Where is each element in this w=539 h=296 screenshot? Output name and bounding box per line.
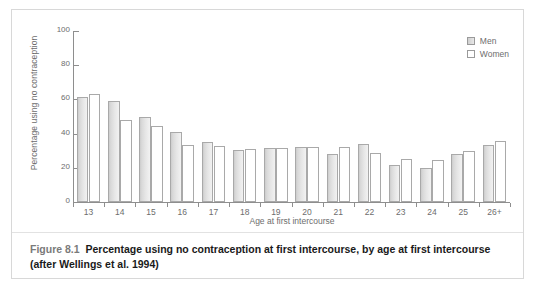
figure-number: Figure 8.1 — [30, 243, 80, 255]
women-swatch-icon — [467, 50, 475, 58]
bar-men[interactable] — [451, 154, 463, 202]
x-axis-tick-label: 16 — [167, 207, 198, 217]
bar-men[interactable] — [389, 165, 401, 202]
bar-men[interactable] — [327, 154, 339, 202]
bar-group — [416, 31, 447, 202]
legend-entry: Women — [467, 49, 509, 59]
bar-women[interactable] — [214, 146, 226, 202]
bar-men[interactable] — [420, 168, 432, 202]
x-axis-tick-label: 24 — [416, 207, 447, 217]
bar-men[interactable] — [108, 101, 120, 202]
bar-women[interactable] — [432, 160, 444, 202]
figure-caption-text: Percentage using no contraception at fir… — [30, 243, 490, 270]
bar-men[interactable] — [264, 148, 276, 202]
x-axis-tick-label: 17 — [198, 207, 229, 217]
bar-men[interactable] — [233, 150, 245, 202]
x-axis-tick-label: 13 — [73, 207, 104, 217]
legend-label: Men — [480, 36, 497, 46]
bar-group — [135, 31, 166, 202]
bar-women[interactable] — [245, 149, 257, 202]
bar-group — [385, 31, 416, 202]
figure-card: Percentage using no contraception Age at… — [11, 9, 524, 279]
bar-series-layer — [73, 31, 510, 202]
x-axis-tick-label: 18 — [229, 207, 260, 217]
bar-group — [73, 31, 104, 202]
y-axis-tick-label: 40 — [44, 128, 70, 137]
y-axis-title: Percentage using no contraception — [29, 18, 39, 188]
men-swatch-icon — [467, 37, 475, 45]
bar-group — [292, 31, 323, 202]
x-axis-tick-label: 22 — [354, 207, 385, 217]
bar-men[interactable] — [202, 142, 214, 202]
caption-divider — [12, 232, 523, 233]
bar-group — [323, 31, 354, 202]
y-axis-tick-label: 60 — [44, 93, 70, 102]
bar-group — [260, 31, 291, 202]
bar-group — [354, 31, 385, 202]
y-axis-tick-label: 80 — [44, 59, 70, 68]
bar-women[interactable] — [182, 145, 194, 202]
y-axis-tick-mark — [74, 202, 79, 203]
bar-women[interactable] — [151, 126, 163, 202]
x-axis-tick-label: 20 — [292, 207, 323, 217]
bar-group — [229, 31, 260, 202]
bar-group — [167, 31, 198, 202]
x-axis-tick-label: 15 — [135, 207, 166, 217]
bar-women[interactable] — [276, 148, 288, 202]
figure-caption: Figure 8.1 Percentage using no contracep… — [30, 242, 508, 272]
bar-men[interactable] — [170, 132, 182, 202]
y-axis-tick-label: 100 — [44, 25, 70, 34]
x-axis-tick-mark — [510, 203, 511, 207]
legend-entry: Men — [467, 36, 509, 46]
bar-women[interactable] — [339, 147, 351, 202]
y-axis-tick-label: 20 — [44, 162, 70, 171]
x-axis-tick-label: 25 — [448, 207, 479, 217]
x-axis-tick-label: 23 — [385, 207, 416, 217]
x-axis-title: Age at first intercourse — [72, 216, 512, 226]
x-axis-tick-label: 19 — [260, 207, 291, 217]
bar-women[interactable] — [495, 141, 507, 202]
bar-men[interactable] — [358, 144, 370, 202]
bar-women[interactable] — [89, 94, 101, 202]
x-axis-tick-label: 14 — [104, 207, 135, 217]
y-axis-tick-label: 0 — [44, 196, 70, 205]
chart-plot-area: Percentage using no contraception Age at… — [12, 10, 523, 232]
bar-women[interactable] — [401, 159, 413, 202]
bar-group — [198, 31, 229, 202]
x-axis-tick-label: 26+ — [479, 207, 510, 217]
legend-label: Women — [480, 49, 509, 59]
bar-women[interactable] — [307, 147, 319, 202]
bar-group — [104, 31, 135, 202]
bar-men[interactable] — [295, 147, 307, 202]
bar-women[interactable] — [370, 153, 382, 202]
bar-men[interactable] — [483, 145, 495, 202]
bar-women[interactable] — [120, 120, 132, 202]
chart-legend: MenWomen — [467, 36, 509, 62]
bar-men[interactable] — [139, 117, 151, 203]
x-axis-tick-label: 21 — [323, 207, 354, 217]
bar-women[interactable] — [463, 151, 475, 202]
bar-men[interactable] — [77, 97, 89, 202]
